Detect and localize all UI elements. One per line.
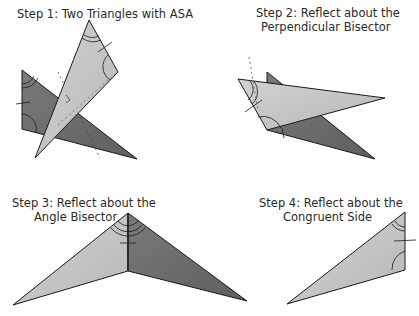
step4-figure: [287, 212, 416, 304]
triangle-diagrams: [0, 0, 419, 316]
step3-light-triangle: [13, 213, 128, 305]
step3-dark-triangle: [128, 213, 247, 301]
step2-figure: [238, 57, 385, 159]
step3-figure: [13, 213, 247, 305]
step4-triangle: [287, 212, 405, 304]
step1-figure: [16, 20, 137, 159]
